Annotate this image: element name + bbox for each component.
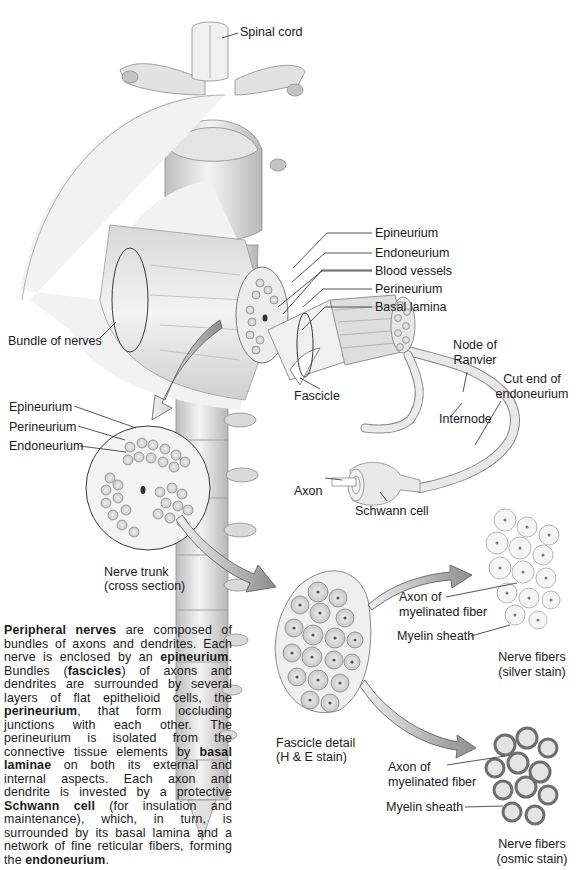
label-perineurium: Perineurium xyxy=(375,282,442,297)
caption-nerve-trunk-1: Nerve trunk xyxy=(104,565,169,580)
caption-osmic-1: Nerve fibers xyxy=(490,837,574,852)
term-peripheral-nerves: Peripheral nerves xyxy=(4,623,116,637)
label-cs-perineurium: Perineurium xyxy=(9,420,76,435)
label-epineurium: Epineurium xyxy=(375,226,438,241)
caption-osmic-2: (osmic stain) xyxy=(490,852,574,867)
label-node-of-ranvier-1: Node of xyxy=(450,338,500,353)
label-fascicle: Fascicle xyxy=(294,389,340,404)
label-osmic-axon-2: myelinated fiber xyxy=(388,775,476,790)
label-cut-end-1: Cut end of xyxy=(490,372,574,387)
label-schwann-cell: Schwann cell xyxy=(355,504,429,519)
osmic-stain-fibers xyxy=(486,728,557,824)
label-cs-endoneurium: Endoneurium xyxy=(9,439,83,454)
silver-stain-fibers xyxy=(486,509,560,629)
term-schwann-cell: Schwann cell xyxy=(4,799,95,813)
label-silver-axon-1: Axon of xyxy=(399,590,441,605)
label-cs-epineurium: Epineurium xyxy=(9,400,72,415)
caption-fascicle-detail-1: Fascicle detail xyxy=(276,736,355,751)
label-spinal-cord: Spinal cord xyxy=(240,25,303,40)
caption-fascicle-detail-2: (H & E stain) xyxy=(276,750,347,765)
label-bundle-of-nerves: Bundle of nerves xyxy=(8,334,102,349)
label-cut-end-2: endoneurium xyxy=(490,387,574,402)
term-endoneurium: endoneurium xyxy=(25,853,105,867)
label-endoneurium: Endoneurium xyxy=(375,246,449,261)
caption-silver-1: Nerve fibers xyxy=(490,650,574,665)
term-fascicles: fascicles xyxy=(68,664,122,678)
term-epineurium: epineurium xyxy=(160,650,228,664)
arrow-to-osmic-stain xyxy=(360,680,476,758)
label-blood-vessels: Blood vessels xyxy=(375,264,452,279)
label-osmic-axon-1: Axon of xyxy=(388,760,430,775)
caption-nerve-trunk-2: (cross section) xyxy=(104,579,185,594)
label-basal-lamina: Basal lamina xyxy=(375,300,447,315)
label-silver-axon-2: myelinated fiber xyxy=(399,605,487,620)
myelinated-fiber xyxy=(332,352,515,505)
label-silver-myelin: Myelin sheath xyxy=(397,629,474,644)
label-node-of-ranvier-2: Ranvier xyxy=(450,353,500,368)
text-segment: . xyxy=(105,853,109,867)
description-paragraph: Peripheral nerves are composed of bundle… xyxy=(4,624,232,867)
label-internode: Internode xyxy=(439,412,492,427)
label-osmic-myelin: Myelin sheath xyxy=(386,800,463,815)
label-axon: Axon xyxy=(294,484,323,499)
caption-silver-2: (silver stain) xyxy=(490,665,574,680)
fascicle-detail xyxy=(275,571,371,713)
term-perineurium: perineurium xyxy=(4,704,77,718)
